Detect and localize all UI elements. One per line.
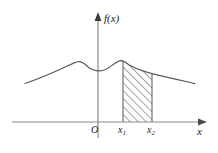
function-label: f(x) — [104, 13, 119, 24]
x2-subscript: 2 — [151, 129, 155, 137]
shaded-region-fill — [122, 58, 154, 124]
y-axis-arrowhead — [95, 12, 102, 21]
function-curve — [25, 61, 195, 84]
x1-tick-label: x1 — [118, 125, 126, 137]
figure-container: f(x) x O x1 x2 — [0, 0, 218, 153]
x2-tick-label: x2 — [147, 125, 155, 137]
origin-label: O — [91, 125, 98, 135]
x-axis-label: x — [197, 126, 202, 137]
x1-subscript: 1 — [122, 129, 126, 137]
